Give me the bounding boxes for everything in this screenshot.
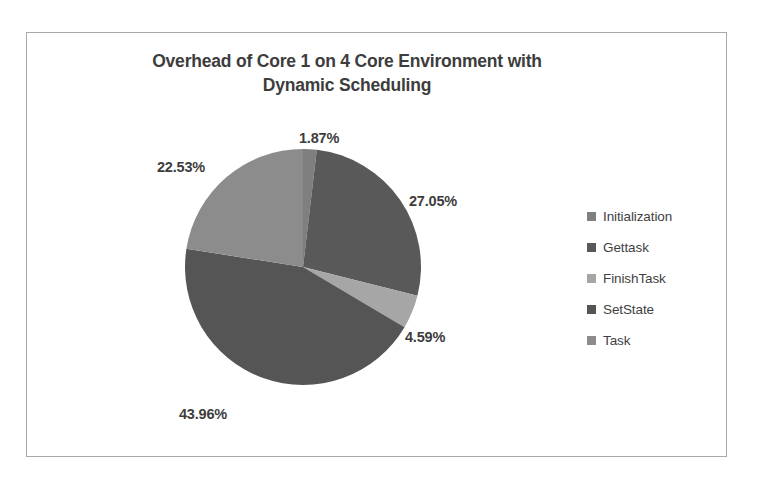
legend-label: SetState <box>603 302 654 317</box>
slice-label-setstate: 43.96% <box>179 406 227 422</box>
legend-swatch-icon <box>587 243 596 252</box>
legend-item-task[interactable]: Task <box>587 325 719 356</box>
legend-item-finishtask[interactable]: FinishTask <box>587 263 719 294</box>
legend-swatch-icon <box>587 305 596 314</box>
legend-swatch-icon <box>587 274 596 283</box>
legend-swatch-icon <box>587 212 596 221</box>
legend-label: Initialization <box>603 209 672 224</box>
slice-label-task: 22.53% <box>157 159 205 175</box>
legend-label: Task <box>603 333 630 348</box>
legend-label: FinishTask <box>603 271 666 286</box>
legend-item-setstate[interactable]: SetState <box>587 294 719 325</box>
legend-swatch-icon <box>587 336 596 345</box>
slice-label-gettask: 27.05% <box>409 193 457 209</box>
legend-item-initialization[interactable]: Initialization <box>587 201 719 232</box>
legend-label: Gettask <box>603 240 649 255</box>
chart-legend: Initialization Gettask FinishTask SetSta… <box>587 201 719 356</box>
chart-frame: Overhead of Core 1 on 4 Core Environment… <box>26 32 727 457</box>
slice-label-initialization: 1.87% <box>299 130 339 146</box>
pie-chart <box>177 141 429 393</box>
legend-item-gettask[interactable]: Gettask <box>587 232 719 263</box>
plot-area: 1.87% 27.05% 4.59% 43.96% 22.53% Initial… <box>27 33 728 458</box>
slice-label-finishtask: 4.59% <box>405 329 445 345</box>
